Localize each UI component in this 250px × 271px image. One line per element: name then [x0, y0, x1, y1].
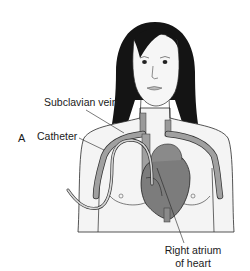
- eye-left: [142, 60, 147, 64]
- label-right-atrium: Right atrium of heart: [162, 245, 224, 268]
- label-subclavian-vein: Subclavian vein: [44, 97, 118, 108]
- eye-right: [163, 60, 168, 64]
- label-catheter: Catheter: [37, 131, 77, 142]
- label-right-atrium-line2: of heart: [162, 258, 224, 269]
- label-right-atrium-line1: Right atrium: [162, 245, 224, 256]
- panel-letter: A: [18, 133, 25, 144]
